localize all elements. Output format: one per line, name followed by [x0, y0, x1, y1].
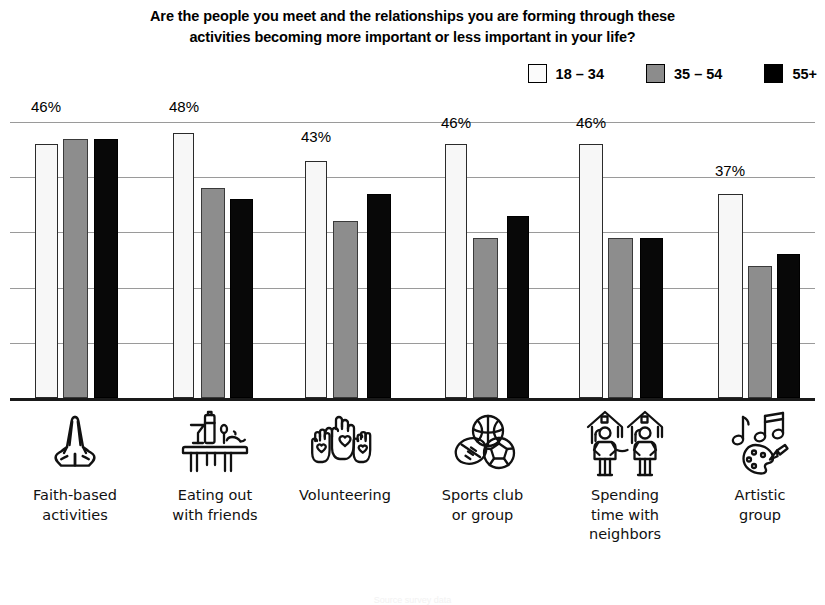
- bar-5-gray[interactable]: [608, 238, 633, 398]
- category-label-line: Faith-based: [0, 486, 150, 506]
- chart-page: Are the people you meet and the relation…: [0, 0, 825, 605]
- gridline-20: [10, 288, 815, 289]
- category-1[interactable]: Faith-basedactivities: [0, 404, 150, 525]
- bar-value-label-6: 37%: [715, 162, 745, 179]
- bar-2-black[interactable]: [230, 199, 253, 398]
- bar-4-white[interactable]: [445, 144, 467, 398]
- legend-item-2[interactable]: 35 – 54: [646, 64, 722, 83]
- bar-value-label-2: 48%: [169, 98, 199, 115]
- category-3[interactable]: Volunteering: [265, 404, 425, 506]
- category-label-line: Spending: [545, 486, 705, 506]
- chart-legend: 18 – 3435 – 5455+: [528, 64, 817, 83]
- bar-6-white[interactable]: [718, 194, 743, 398]
- legend-item-3[interactable]: 55+: [764, 64, 817, 83]
- category-label: Volunteering: [265, 486, 425, 506]
- category-4[interactable]: Sports clubor group: [405, 404, 560, 525]
- category-6[interactable]: Artisticgroup: [685, 404, 825, 525]
- legend-item-1[interactable]: 18 – 34: [528, 64, 604, 83]
- bar-4-gray[interactable]: [473, 238, 498, 398]
- praying-hands-icon: [0, 404, 150, 482]
- neighbors-houses-icon: [545, 404, 705, 482]
- category-label-line: Volunteering: [265, 486, 425, 506]
- bar-3-black[interactable]: [367, 194, 391, 398]
- title-line-1: Are the people you meet and the relation…: [0, 6, 825, 27]
- sports-balls-icon: [405, 404, 560, 482]
- bar-2-white[interactable]: [173, 133, 194, 398]
- x-axis: [10, 398, 815, 401]
- legend-swatch-gray: [646, 64, 665, 83]
- category-label-line: or group: [405, 506, 560, 526]
- category-label-line: Sports club: [405, 486, 560, 506]
- bar-1-gray[interactable]: [63, 139, 88, 398]
- plot-area: 46%48%43%46%46%37%: [10, 100, 815, 400]
- legend-swatch-black: [764, 64, 783, 83]
- raised-hands-hearts-icon: [265, 404, 425, 482]
- category-label-line: neighbors: [545, 525, 705, 545]
- page-title: Are the people you meet and the relation…: [0, 6, 825, 48]
- bar-5-black[interactable]: [640, 238, 663, 398]
- category-label-line: with friends: [140, 506, 290, 526]
- legend-label: 55+: [792, 66, 817, 82]
- category-label-line: activities: [0, 506, 150, 526]
- bar-3-gray[interactable]: [333, 221, 358, 398]
- category-label: Faith-basedactivities: [0, 486, 150, 525]
- category-5[interactable]: Spendingtime withneighbors: [545, 404, 705, 545]
- bar-5-white[interactable]: [579, 144, 603, 398]
- bar-1-white[interactable]: [35, 144, 58, 398]
- gridline-40: [10, 177, 815, 178]
- bar-value-label-3: 43%: [301, 128, 331, 145]
- category-label-line: group: [685, 506, 825, 526]
- footnote: Source survey data: [0, 595, 825, 605]
- category-label: Sports clubor group: [405, 486, 560, 525]
- gridline-10: [10, 343, 815, 344]
- bar-value-label-1: 46%: [31, 98, 61, 115]
- bar-value-label-5: 46%: [576, 114, 606, 131]
- bar-4-black[interactable]: [507, 216, 529, 398]
- category-label: Artisticgroup: [685, 486, 825, 525]
- category-label-line: time with: [545, 506, 705, 526]
- category-label-line: Artistic: [685, 486, 825, 506]
- bar-value-label-4: 46%: [441, 114, 471, 131]
- title-line-2: activities becoming more important or le…: [0, 27, 825, 48]
- bar-3-white[interactable]: [305, 161, 327, 398]
- legend-label: 35 – 54: [674, 66, 722, 82]
- music-palette-icon: [685, 404, 825, 482]
- category-strip: Faith-basedactivities Eating outwith fri…: [0, 404, 825, 604]
- category-label: Spendingtime withneighbors: [545, 486, 705, 545]
- bar-1-black[interactable]: [94, 139, 118, 398]
- legend-label: 18 – 34: [556, 66, 604, 82]
- gridline-50: [10, 122, 815, 123]
- bar-6-gray[interactable]: [748, 266, 772, 398]
- gridline-30: [10, 232, 815, 233]
- bar-2-gray[interactable]: [201, 188, 225, 398]
- legend-swatch-white: [528, 64, 547, 83]
- bar-6-black[interactable]: [777, 254, 800, 398]
